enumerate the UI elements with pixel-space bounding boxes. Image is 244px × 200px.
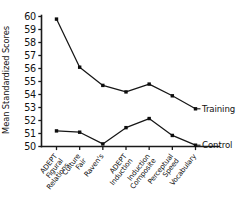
data-series [55,117,201,147]
y-axis-title: Mean Standardized Scores [1,26,11,134]
data-series-layer [55,17,201,147]
series-end-labels: TrainingControl [201,104,235,150]
y-tick-label: 59 [24,24,36,35]
data-point-marker [171,134,174,137]
data-point-marker [147,82,150,85]
series-polyline [57,119,196,146]
y-tick-label: 57 [24,50,36,61]
data-point-marker [124,126,127,129]
y-axis-ticks: 5051525354555657585960 [24,11,41,152]
series-end-label: Training [201,104,235,114]
line-chart: Mean Standardized Scores 505152535455565… [0,0,244,200]
data-point-marker [101,84,104,87]
y-tick-label: 55 [24,76,36,87]
y-tick-label: 51 [24,128,36,139]
data-point-marker [78,131,81,134]
y-tick-label: 50 [24,141,36,152]
data-point-marker [171,94,174,97]
x-category-label: CultureFair [60,152,88,182]
data-point-marker [147,117,150,120]
series-polyline [57,19,196,109]
data-point-marker [124,90,127,93]
data-point-marker [55,129,58,132]
y-tick-label: 52 [24,115,36,126]
y-tick-label: 53 [24,102,36,113]
y-axis-title-text: Mean Standardized Scores [1,26,11,134]
data-series [55,17,201,110]
data-point-marker [101,142,104,145]
y-tick-label: 60 [24,11,36,22]
data-point-marker [55,17,58,20]
y-tick-label: 54 [24,89,36,100]
series-end-label: Control [202,140,232,150]
y-tick-label: 56 [24,63,36,74]
data-point-marker [78,66,81,69]
chart-figure: Mean Standardized Scores 505152535455565… [0,0,244,200]
y-tick-label: 58 [24,37,36,48]
x-axis-category-labels: ADEPTFiguralRelationsCultureFairRaven'sA… [33,151,198,191]
